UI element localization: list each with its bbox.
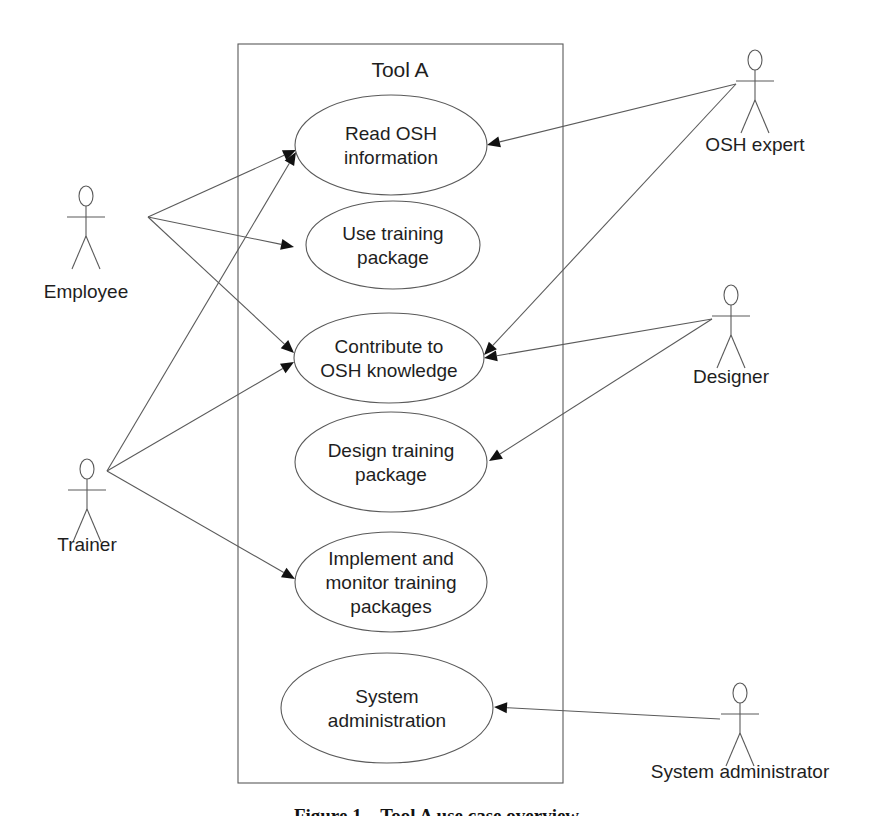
association-employee-to-contribute <box>148 217 294 353</box>
association-designer-to-design <box>489 319 712 461</box>
association-line <box>148 217 284 344</box>
association-line <box>148 217 281 244</box>
use-case-diagram: Tool A Read OSHinformationUse trainingpa… <box>0 0 873 816</box>
use-case-ellipse <box>295 412 487 512</box>
arrowhead-icon <box>280 362 294 373</box>
association-line <box>107 471 284 573</box>
association-trainer-to-implement <box>107 471 295 579</box>
arrowhead-icon <box>494 702 507 713</box>
stick-figure-icon <box>67 186 105 269</box>
use-case-label: Implement and <box>328 548 454 569</box>
use-case-ellipse <box>295 95 487 195</box>
use-case-label: packages <box>350 596 431 617</box>
actor-employee[interactable]: Employee <box>44 186 129 302</box>
actor-system-administrator[interactable]: System administrator <box>651 683 830 782</box>
use-case-ellipse <box>306 201 480 289</box>
association-line <box>507 708 720 719</box>
actor-label: Designer <box>693 366 770 387</box>
stick-figure-icon <box>712 285 750 368</box>
association-line <box>500 319 712 454</box>
association-line <box>148 155 284 217</box>
use-case-label: administration <box>328 710 446 731</box>
stick-figure-icon <box>736 50 774 133</box>
association-trainer-to-read <box>107 152 296 471</box>
stick-figure-icon <box>68 459 106 542</box>
association-osh-expert-to-read <box>487 84 736 147</box>
arrowhead-icon <box>487 137 501 148</box>
use-case-label: Design training <box>328 440 455 461</box>
use-case-label: information <box>344 147 438 168</box>
use-case-label: monitor training <box>326 572 457 593</box>
use-case-sysadmin[interactable]: Systemadministration <box>281 653 493 763</box>
figure-caption: Figure 1 – Tool A use case overview <box>0 802 873 816</box>
arrowhead-icon <box>280 239 294 250</box>
actor-designer[interactable]: Designer <box>693 285 770 387</box>
arrowhead-icon <box>281 568 295 579</box>
association-line <box>500 84 736 142</box>
use-case-label: package <box>357 247 429 268</box>
association-line <box>107 369 283 471</box>
use-case-ellipse <box>281 653 493 763</box>
use-case-contribute[interactable]: Contribute toOSH knowledge <box>294 313 484 403</box>
association-employee-to-use <box>148 217 294 250</box>
association-trainer-to-contribute <box>107 362 294 471</box>
use-case-ellipse <box>294 313 484 403</box>
use-cases: Read OSHinformationUse trainingpackageCo… <box>281 95 493 763</box>
association-line <box>493 84 736 345</box>
use-case-use[interactable]: Use trainingpackage <box>306 201 480 289</box>
use-case-read[interactable]: Read OSHinformation <box>295 95 487 195</box>
actor-label: OSH expert <box>705 134 805 155</box>
actor-label: Employee <box>44 281 129 302</box>
association-system-administrator-to-sysadmin <box>494 702 720 719</box>
use-case-design[interactable]: Design trainingpackage <box>295 412 487 512</box>
use-case-label: System <box>355 686 418 707</box>
actor-label: System administrator <box>651 761 830 782</box>
association-osh-expert-to-contribute <box>484 84 736 355</box>
use-case-label: Read OSH <box>345 123 437 144</box>
actor-trainer[interactable]: Trainer <box>57 459 117 555</box>
actor-osh-expert[interactable]: OSH expert <box>705 50 805 155</box>
association-line <box>497 319 712 356</box>
use-case-label: OSH knowledge <box>320 360 457 381</box>
actor-label: Trainer <box>57 534 117 555</box>
use-case-label: Use training <box>342 223 443 244</box>
association-employee-to-read <box>148 150 296 217</box>
arrowhead-icon <box>489 449 503 461</box>
use-case-implement[interactable]: Implement andmonitor trainingpackages <box>295 532 487 632</box>
stick-figure-icon <box>721 683 759 766</box>
use-case-label: Contribute to <box>335 336 444 357</box>
system-title: Tool A <box>371 58 428 81</box>
association-line <box>107 163 289 471</box>
association-designer-to-contribute <box>484 319 712 361</box>
use-case-label: package <box>355 464 427 485</box>
